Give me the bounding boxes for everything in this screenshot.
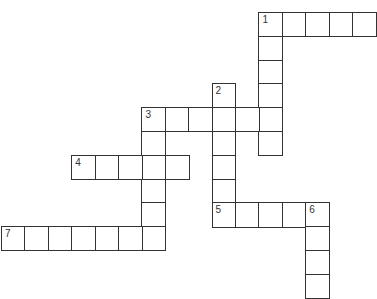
clue-number: 6 <box>309 204 315 215</box>
crossword-cell[interactable] <box>235 202 260 227</box>
crossword-cell[interactable] <box>165 155 190 180</box>
crossword-cell[interactable] <box>235 107 260 132</box>
clue-number: 3 <box>145 109 151 120</box>
crossword-cell[interactable] <box>141 179 166 204</box>
clue-number: 1 <box>262 14 268 25</box>
crossword-cell[interactable] <box>212 179 237 204</box>
crossword-cell[interactable] <box>305 12 330 37</box>
crossword-cell[interactable] <box>305 226 330 251</box>
crossword-cell[interactable] <box>118 155 143 180</box>
crossword-cell[interactable]: 7 <box>1 226 26 251</box>
crossword-cell[interactable] <box>258 107 283 132</box>
crossword-cell[interactable]: 3 <box>141 107 166 132</box>
crossword-cell[interactable] <box>282 12 307 37</box>
crossword-cell[interactable] <box>95 226 120 251</box>
crossword-cell[interactable] <box>258 83 283 108</box>
clue-number: 4 <box>75 157 81 168</box>
crossword-cell[interactable] <box>141 202 166 227</box>
crossword-cell[interactable] <box>305 250 330 275</box>
crossword-cell[interactable] <box>258 202 283 227</box>
crossword-cell[interactable] <box>258 36 283 61</box>
crossword-cell[interactable]: 4 <box>71 155 96 180</box>
clue-number: 7 <box>5 228 11 239</box>
crossword-cell[interactable]: 5 <box>212 202 237 227</box>
clue-number: 5 <box>216 204 222 215</box>
crossword-cell[interactable] <box>188 107 213 132</box>
crossword-cell[interactable] <box>71 226 96 251</box>
crossword-cell[interactable] <box>282 202 307 227</box>
crossword-cell[interactable] <box>258 131 283 156</box>
crossword-cell[interactable] <box>95 155 120 180</box>
crossword-cell[interactable] <box>141 131 166 156</box>
crossword-cell[interactable] <box>305 274 330 299</box>
crossword-cell[interactable] <box>165 107 190 132</box>
crossword-cell[interactable] <box>141 226 166 251</box>
crossword-cell[interactable] <box>212 155 237 180</box>
crossword-cell[interactable] <box>48 226 73 251</box>
crossword-cell[interactable] <box>329 12 354 37</box>
crossword-cell[interactable] <box>141 155 166 180</box>
crossword-cell[interactable] <box>212 131 237 156</box>
crossword-cell[interactable] <box>258 60 283 85</box>
crossword-cell[interactable]: 1 <box>258 12 283 37</box>
crossword-cell[interactable] <box>212 107 237 132</box>
crossword-cell[interactable]: 6 <box>305 202 330 227</box>
crossword-cell[interactable] <box>352 12 377 37</box>
crossword-cell[interactable] <box>24 226 49 251</box>
crossword-cell[interactable]: 2 <box>212 83 237 108</box>
clue-number: 2 <box>216 85 222 96</box>
crossword-cell[interactable] <box>118 226 143 251</box>
